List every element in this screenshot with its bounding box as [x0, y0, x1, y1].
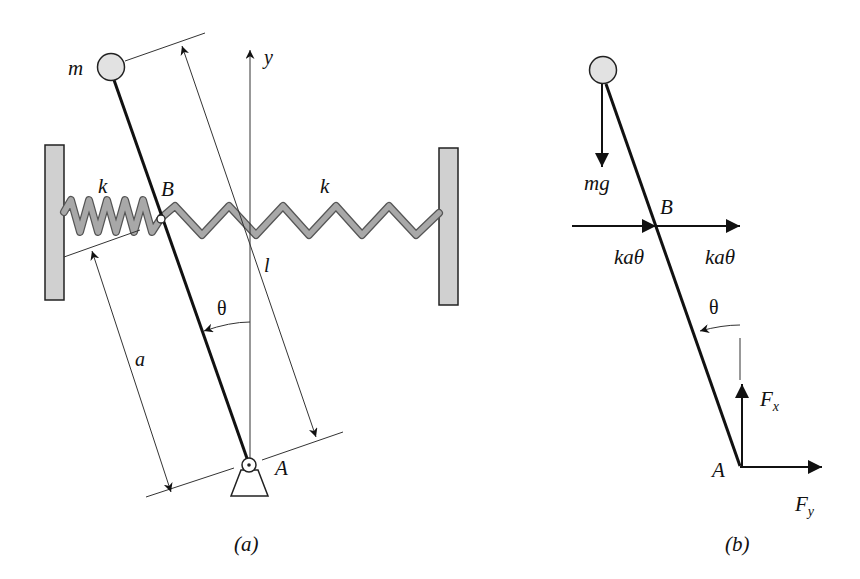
pendulum-spring-diagram: y l a m B k k θ A (a) [0, 0, 860, 579]
pivot-a-center [247, 463, 251, 467]
spring-force-left-label: kaθ [614, 245, 644, 269]
caption-a: (a) [234, 532, 259, 556]
caption-b: (b) [725, 532, 750, 556]
angle-theta-arc [204, 322, 250, 331]
mass-label: m [68, 56, 83, 80]
free-body-point-a-label: A [710, 458, 725, 482]
length-l-label: l [264, 254, 270, 276]
free-body-mass [590, 57, 617, 84]
reaction-vertical-symbol: F [759, 387, 773, 411]
dimension-l [182, 46, 316, 437]
mass-bob [98, 54, 125, 81]
pendulum-rod [114, 80, 249, 464]
spring-left-k-label: k [98, 174, 108, 198]
panel-b: mg B kaθ kaθ θ Fx Fy A (b) [572, 57, 822, 557]
left-wall [45, 145, 64, 300]
weight-label: mg [584, 171, 610, 195]
extension-line-top [125, 33, 205, 61]
free-body-angle-arc [700, 325, 740, 331]
length-a-label: a [135, 348, 145, 370]
spring-right-k-label: k [320, 174, 330, 198]
extension-line-bottom-left [146, 468, 234, 497]
reaction-vertical-label: Fx [759, 387, 780, 414]
extension-line-spring [64, 230, 140, 257]
pivot-support [231, 470, 268, 496]
right-spring [161, 206, 439, 235]
reaction-horizontal-subscript: y [806, 504, 815, 519]
panel-a: y l a m B k k θ A (a) [45, 33, 458, 556]
y-axis-label: y [262, 46, 273, 69]
angle-theta-label: θ [217, 297, 227, 319]
point-b-label: B [161, 177, 174, 201]
dimension-a [92, 251, 171, 492]
reaction-vertical-subscript: x [772, 399, 780, 414]
reaction-horizontal-label: Fy [794, 492, 815, 519]
point-b-hinge [157, 215, 165, 223]
free-body-angle-label: θ [709, 296, 719, 318]
right-wall [439, 148, 458, 305]
free-body-rod [606, 84, 740, 466]
reaction-horizontal-symbol: F [794, 492, 808, 516]
free-body-point-b-label: B [660, 195, 673, 219]
spring-force-right-label: kaθ [705, 245, 735, 269]
left-spring [64, 200, 161, 232]
point-a-label: A [273, 456, 288, 480]
